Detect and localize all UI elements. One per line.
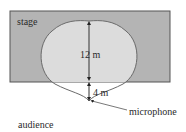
microphone-label: microphone bbox=[129, 106, 177, 117]
front-distance-label: 12 m bbox=[80, 49, 101, 60]
audience-label: audience bbox=[18, 119, 54, 130]
cardioid-diagram: stage 12 m 4 m microphone audience bbox=[0, 0, 186, 132]
stage-label: stage bbox=[17, 16, 38, 27]
microphone-leader-line bbox=[92, 101, 127, 110]
rear-distance-label: 4 m bbox=[93, 87, 109, 98]
